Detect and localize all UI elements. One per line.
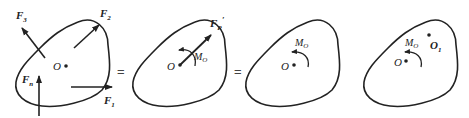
point-o-label: O <box>281 60 289 72</box>
moment-arc <box>405 52 421 67</box>
point-o <box>178 63 182 67</box>
point-o <box>292 63 296 67</box>
moment-label: MO <box>404 37 418 50</box>
body-outline <box>133 20 227 106</box>
force-f3-label: F3 <box>15 9 27 24</box>
resultant-label: FR′ <box>209 15 225 32</box>
point-o1-label: O1 <box>430 39 441 54</box>
force-fn-label: Fn <box>21 73 33 88</box>
force-f2-arrow <box>74 25 99 48</box>
panel-moment-only: MO O <box>246 20 340 106</box>
body-outline <box>364 20 458 106</box>
point-o-label: O <box>167 60 175 72</box>
force-f1-label: F1 <box>103 94 115 109</box>
body-outline <box>16 20 110 106</box>
body-outline <box>246 20 340 106</box>
point-o <box>404 59 408 63</box>
diagram-canvas: F3 F2 Fn F1 O = FR′ MO O = MO O MO <box>0 0 469 118</box>
equals-sign-2: = <box>234 64 242 79</box>
point-o-label: O <box>53 60 61 72</box>
force-f2-label: F2 <box>99 7 111 22</box>
panel-resultant-and-moment: FR′ MO O <box>133 15 227 106</box>
point-o1 <box>427 33 431 37</box>
equals-sign-1: = <box>117 64 125 79</box>
moment-label: MO <box>294 37 308 50</box>
point-o <box>64 64 68 68</box>
point-o-label: O <box>394 56 402 68</box>
panel-moment-with-o1: MO O O1 <box>364 20 458 106</box>
panel-force-system: F3 F2 Fn F1 O <box>15 7 115 116</box>
